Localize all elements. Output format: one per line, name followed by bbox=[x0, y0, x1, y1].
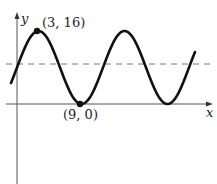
x-axis-label: x bbox=[206, 106, 213, 119]
max-point bbox=[34, 28, 40, 34]
min-point-label: (9, 0) bbox=[63, 108, 98, 121]
sinusoid-curve bbox=[11, 31, 195, 104]
max-point-label: (3, 16) bbox=[42, 16, 85, 29]
y-axis-label: y bbox=[21, 12, 28, 25]
y-axis-arrow-icon bbox=[15, 12, 20, 19]
graph bbox=[0, 0, 217, 184]
